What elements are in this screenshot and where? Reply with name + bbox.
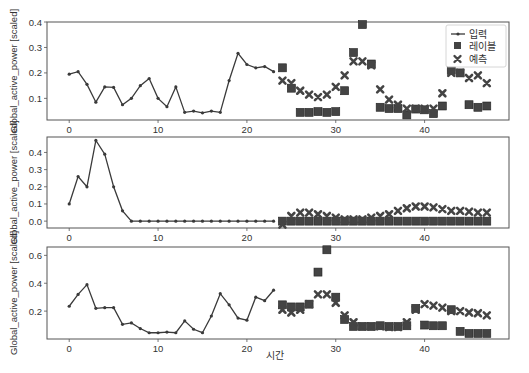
input-point xyxy=(156,97,159,100)
input-point xyxy=(236,220,239,223)
input-point xyxy=(183,111,186,114)
input-point xyxy=(165,105,168,108)
chart-panel-top: 0102030400.10.20.30.4Global_active_power… xyxy=(8,9,509,135)
y-tick-label: 0.2 xyxy=(29,181,42,192)
input-point xyxy=(174,331,177,334)
label-point xyxy=(447,217,455,225)
input-point xyxy=(76,293,79,296)
input-point xyxy=(68,202,71,205)
input-point xyxy=(121,103,124,106)
label-point xyxy=(296,217,304,225)
label-point xyxy=(474,217,482,225)
label-point xyxy=(412,217,420,225)
label-point xyxy=(314,108,322,116)
label-point xyxy=(438,322,446,330)
input-point xyxy=(245,319,248,322)
label-point xyxy=(305,108,313,116)
input-point xyxy=(156,220,159,223)
label-point xyxy=(483,329,491,337)
input-point xyxy=(192,220,195,223)
x-tick-label: 40 xyxy=(419,343,430,354)
input-point xyxy=(121,323,124,326)
input-point xyxy=(103,153,106,156)
label-point xyxy=(429,322,437,330)
input-point xyxy=(76,70,79,73)
x-tick-label: 40 xyxy=(419,124,430,135)
input-point xyxy=(130,97,133,100)
legend-entry-label: 예측 xyxy=(469,54,487,65)
x-tick-label: 20 xyxy=(242,124,253,135)
x-tick-label: 40 xyxy=(419,232,430,243)
x-tick-label: 30 xyxy=(330,343,341,354)
input-point xyxy=(263,299,266,302)
input-point xyxy=(94,139,97,142)
legend: 입력레이블예측 xyxy=(446,25,506,67)
chart-panel-middle: 0102030400.00.10.20.30.4Global_active_po… xyxy=(8,120,509,244)
y-tick-label: 0.4 xyxy=(29,278,42,289)
label-point xyxy=(483,217,491,225)
input-point xyxy=(156,331,159,334)
x-tick-label: 30 xyxy=(330,124,341,135)
y-tick-label: 0.0 xyxy=(29,216,42,227)
x-tick-label: 0 xyxy=(67,232,72,243)
label-point xyxy=(323,108,331,116)
y-tick-label: 0.1 xyxy=(29,198,42,209)
x-tick-label: 20 xyxy=(242,232,253,243)
label-point xyxy=(305,217,313,225)
label-point xyxy=(438,102,446,110)
input-point xyxy=(228,79,231,82)
input-point xyxy=(219,220,222,223)
chart-panel-bottom: 0102030400.20.40.6Global_active_power [s… xyxy=(8,231,509,355)
label-point xyxy=(358,21,366,29)
input-point xyxy=(272,70,275,73)
input-point xyxy=(201,220,204,223)
input-point xyxy=(228,303,231,306)
input-point xyxy=(236,316,239,319)
label-point xyxy=(474,103,482,111)
label-point xyxy=(403,217,411,225)
x-tick-label: 10 xyxy=(153,124,164,135)
label-point xyxy=(429,217,437,225)
input-point xyxy=(245,220,248,223)
label-point xyxy=(474,329,482,337)
input-point xyxy=(192,109,195,112)
input-point xyxy=(76,175,79,178)
input-point xyxy=(103,306,106,309)
input-point xyxy=(263,220,266,223)
label-point xyxy=(323,246,331,254)
input-point xyxy=(210,314,213,317)
input-point xyxy=(121,209,124,212)
input-point xyxy=(219,111,222,114)
y-tick-label: 0.1 xyxy=(29,93,42,104)
input-point xyxy=(174,220,177,223)
label-point xyxy=(421,217,429,225)
input-point xyxy=(94,101,97,104)
x-tick-label: 0 xyxy=(67,343,72,354)
y-tick-label: 0.3 xyxy=(29,42,42,53)
input-point xyxy=(103,85,106,88)
y-tick-label: 0.4 xyxy=(29,147,42,158)
x-axis-label: 시간 xyxy=(266,350,284,361)
label-point xyxy=(296,108,304,116)
input-point xyxy=(183,319,186,322)
legend-square-icon xyxy=(454,42,461,49)
input-point xyxy=(254,66,257,69)
input-point xyxy=(85,83,88,86)
input-point xyxy=(148,220,151,223)
input-point xyxy=(68,73,71,76)
input-point xyxy=(201,111,204,114)
input-point xyxy=(112,306,115,309)
x-tick-label: 30 xyxy=(330,232,341,243)
input-point xyxy=(165,220,168,223)
label-point xyxy=(438,217,446,225)
input-point xyxy=(112,185,115,188)
label-point xyxy=(394,217,402,225)
input-point xyxy=(254,296,257,299)
label-point xyxy=(456,217,464,225)
legend-entry-label: 입력 xyxy=(469,28,487,40)
label-point xyxy=(465,101,473,109)
legend-entry-label: 레이블 xyxy=(469,41,496,52)
input-point xyxy=(85,283,88,286)
input-point xyxy=(192,328,195,331)
label-point xyxy=(483,102,491,110)
